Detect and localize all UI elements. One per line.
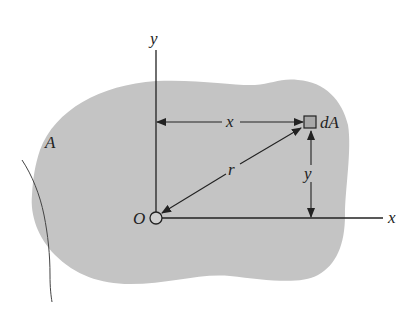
y-axis-label: y: [148, 29, 158, 48]
area-element-dA: [304, 116, 316, 128]
origin-circle: [150, 212, 162, 224]
radius-label: r: [228, 160, 235, 179]
area-moment-diagram: y x A O dA x y r: [0, 0, 412, 322]
y-distance-label: y: [302, 164, 312, 183]
origin-label: O: [133, 209, 145, 228]
diagram-svg: y x A O dA x y r: [0, 0, 412, 322]
x-distance-label: x: [225, 112, 234, 131]
region-label: A: [44, 133, 56, 152]
element-label: dA: [320, 113, 340, 132]
x-axis-label: x: [387, 208, 396, 227]
region-area: [32, 80, 350, 284]
